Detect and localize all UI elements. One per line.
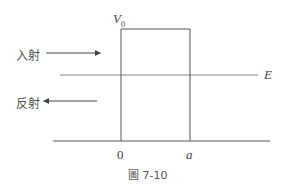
figure-caption: 圖 7-10 (128, 166, 167, 182)
incident-label: 入射 (16, 46, 40, 63)
barrier-outline (121, 29, 190, 141)
reflected-label: 反射 (16, 94, 40, 111)
potential-barrier-diagram (0, 0, 289, 191)
width-tick-label: a (186, 147, 193, 163)
barrier-height-label: V0 (113, 11, 125, 29)
energy-label: E (264, 67, 272, 83)
origin-tick-label: 0 (117, 147, 124, 163)
